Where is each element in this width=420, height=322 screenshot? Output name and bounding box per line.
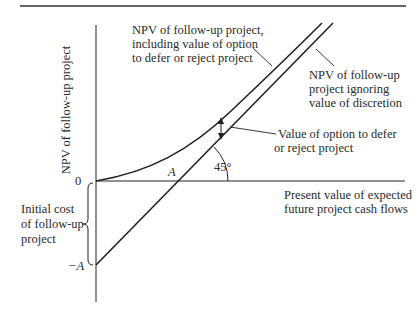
x-axis-label-line-1: Present value of expected — [284, 188, 413, 202]
curve-label-line-1: NPV of follow-up project, — [132, 23, 264, 37]
gap-label-line-2: or reject project — [274, 141, 354, 155]
intercept-label: −A — [68, 259, 84, 273]
brace-label-line-2: of follow-up — [21, 217, 84, 231]
option-diagram: NPV of follow-up project 0 −A A 45° NPV … — [0, 0, 420, 322]
x-axis-label-line-2: future project cash flows — [284, 202, 408, 216]
origin-label: 0 — [75, 174, 81, 188]
line-label-line-3: value of discretion — [309, 96, 403, 110]
gap-leader — [230, 127, 276, 134]
gap-label-line-1: Value of option to defer — [278, 127, 398, 141]
line-label-line-1: NPV of follow-up — [309, 68, 400, 82]
x-intercept-label: A — [167, 165, 176, 179]
line-label-line-2: project ignoring — [309, 82, 390, 96]
brace-label-line-1: Initial cost — [21, 202, 75, 216]
line-leader — [316, 49, 334, 66]
brace-label-line-3: project — [21, 232, 56, 246]
angle-label: 45° — [214, 160, 232, 174]
initial-cost-brace — [83, 183, 93, 265]
curve-label-line-3: to defer or reject project — [132, 51, 253, 65]
y-axis-label: NPV of follow-up project — [59, 45, 73, 174]
curve-label-line-2: including value of option — [132, 37, 259, 51]
